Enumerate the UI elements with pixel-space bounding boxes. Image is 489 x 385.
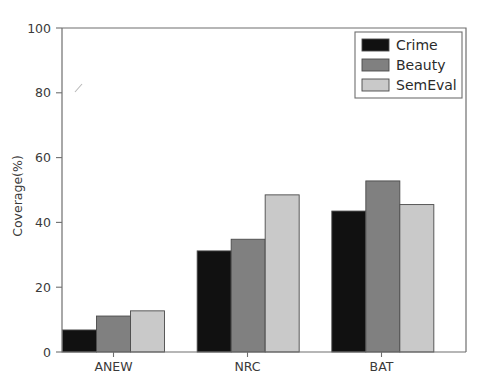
bar-anew-semeval xyxy=(131,311,165,352)
x-axis-ticks xyxy=(114,352,382,357)
y-axis-title: Coverage(%) xyxy=(10,155,25,237)
y-tick-label: 60 xyxy=(35,150,51,165)
legend-swatch-beauty xyxy=(362,59,389,71)
y-tick-label: 0 xyxy=(43,345,51,360)
y-axis-ticks xyxy=(56,28,62,352)
bar-anew-crime xyxy=(63,330,97,352)
x-tick-label-nrc: NRC xyxy=(234,359,260,374)
y-tick-label: 80 xyxy=(35,85,51,100)
x-tick-label-bat: BAT xyxy=(370,359,394,374)
y-axis-tick-labels: 0 20 40 60 80 100 xyxy=(27,21,51,360)
bar-bat-crime xyxy=(332,211,366,352)
x-tick-label-anew: ANEW xyxy=(94,359,132,374)
bar-anew-beauty xyxy=(97,316,131,352)
y-tick-label: 20 xyxy=(35,280,51,295)
bar-nrc-crime xyxy=(197,251,231,352)
bar-bat-semeval xyxy=(400,205,434,352)
legend-label-beauty: Beauty xyxy=(396,57,445,73)
legend-label-semeval: SemEval xyxy=(396,77,457,93)
legend-swatch-crime xyxy=(362,39,389,51)
bar-chart: 0 20 40 60 80 100 Coverage(%) xyxy=(0,0,489,385)
bar-bat-beauty xyxy=(366,181,400,352)
figure-canvas: 0 20 40 60 80 100 Coverage(%) xyxy=(0,0,489,385)
bar-nrc-beauty xyxy=(231,239,265,352)
y-tick-label: 40 xyxy=(35,215,51,230)
x-axis-tick-labels: ANEW NRC BAT xyxy=(94,359,393,374)
legend-label-crime: Crime xyxy=(396,37,438,53)
legend-swatch-semeval xyxy=(362,79,389,91)
y-tick-label: 100 xyxy=(27,21,51,36)
chart-legend: Crime Beauty SemEval xyxy=(355,32,462,98)
bar-nrc-semeval xyxy=(265,195,299,352)
